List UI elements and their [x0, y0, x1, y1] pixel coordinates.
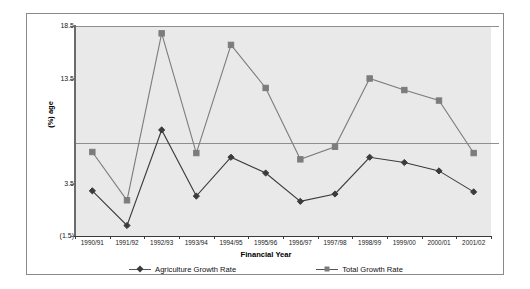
legend-line-square-icon — [316, 269, 338, 270]
x-tick-mark — [214, 236, 215, 239]
x-tick-mark — [248, 236, 249, 239]
data-point[interactable] — [298, 157, 303, 162]
x-tick-mark — [144, 236, 145, 239]
data-point[interactable] — [90, 149, 95, 154]
y-tick-label: (1.5) — [40, 232, 74, 240]
y-tick-mark — [70, 236, 74, 237]
data-point[interactable] — [436, 98, 441, 103]
chart-legend: Agriculture Growth Rate Total Growth Rat… — [27, 262, 505, 276]
data-point[interactable] — [159, 127, 165, 133]
x-tick-mark — [456, 236, 457, 239]
data-point[interactable] — [401, 159, 407, 165]
x-axis-title: Financial Year — [27, 250, 505, 259]
x-tick-label: 2001/02 — [454, 239, 494, 247]
series-line-agriculture — [92, 130, 473, 226]
y-tick-label: 3.5 — [40, 180, 74, 188]
data-point[interactable] — [436, 168, 442, 174]
legend-label: Total Growth Rate — [342, 265, 403, 274]
x-tick-mark — [110, 236, 111, 239]
legend-label: Agriculture Growth Rate — [155, 265, 236, 274]
data-point[interactable] — [332, 144, 337, 149]
x-tick-mark — [387, 236, 388, 239]
legend-item-total-growth-rate[interactable]: Total Growth Rate — [316, 265, 403, 274]
x-tick-mark — [318, 236, 319, 239]
y-tick-mark — [70, 79, 74, 80]
data-series-layer — [75, 25, 491, 237]
data-point[interactable] — [194, 150, 199, 155]
x-tick-mark — [283, 236, 284, 239]
data-point[interactable] — [263, 85, 268, 90]
data-point[interactable] — [124, 198, 129, 203]
y-tick-mark — [70, 184, 74, 185]
data-point[interactable] — [402, 87, 407, 92]
data-point[interactable] — [228, 42, 233, 47]
legend-item-agriculture-growth-rate[interactable]: Agriculture Growth Rate — [129, 265, 236, 274]
legend-line-diamond-icon — [129, 269, 151, 270]
data-point[interactable] — [367, 76, 372, 81]
x-tick-mark — [422, 236, 423, 239]
x-tick-mark — [352, 236, 353, 239]
data-point[interactable] — [159, 31, 164, 36]
y-tick-label: 18.5 — [40, 22, 74, 30]
data-point[interactable] — [471, 189, 477, 195]
x-tick-mark — [491, 236, 492, 239]
series-line-total — [92, 33, 473, 200]
x-tick-mark — [179, 236, 180, 239]
x-tick-mark — [75, 236, 76, 239]
x-axis-ticks: 1990/911991/921992/931993/941994/951995/… — [75, 238, 491, 250]
y-tick-mark — [70, 26, 74, 27]
data-point[interactable] — [471, 150, 476, 155]
chart-frame: 18.513.53.5(1.5) (%) age 1990/911991/921… — [26, 13, 504, 275]
y-axis-title: (%) age — [46, 80, 55, 150]
